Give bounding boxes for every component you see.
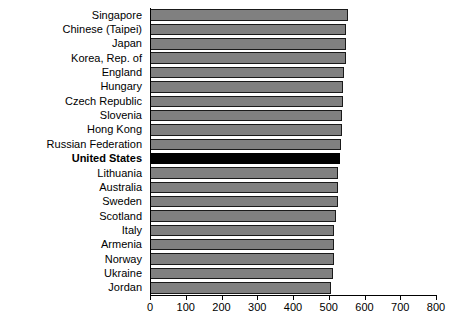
bar-armenia — [150, 239, 334, 250]
bar-japan — [150, 38, 346, 49]
bar-united-states — [150, 153, 340, 164]
x-tick-0 — [150, 295, 151, 300]
x-tick-label-300: 300 — [248, 301, 266, 313]
bar-chinese-taipei — [150, 24, 346, 35]
bar-italy — [150, 225, 334, 236]
category-label-czech-republic: Czech Republic — [0, 96, 142, 107]
x-tick-label-600: 600 — [355, 301, 373, 313]
bar-england — [150, 67, 344, 78]
bar-chart: SingaporeChinese (Taipei)JapanKorea, Rep… — [0, 0, 453, 329]
x-tick-300 — [257, 295, 258, 300]
x-tick-label-700: 700 — [391, 301, 409, 313]
x-tick-label-100: 100 — [177, 301, 195, 313]
bar-jordan — [150, 282, 331, 293]
category-label-hungary: Hungary — [0, 81, 142, 92]
x-tick-600 — [365, 295, 366, 300]
x-tick-label-500: 500 — [320, 301, 338, 313]
category-label-hong-kong: Hong Kong — [0, 124, 142, 135]
y-axis-line — [150, 8, 151, 295]
x-tick-700 — [400, 295, 401, 300]
x-tick-800 — [436, 295, 437, 300]
category-label-russian-federation: Russian Federation — [0, 139, 142, 150]
category-label-scotland: Scotland — [0, 211, 142, 222]
bar-hong-kong — [150, 124, 342, 135]
x-tick-label-400: 400 — [284, 301, 302, 313]
category-label-england: England — [0, 67, 142, 78]
x-tick-400 — [293, 295, 294, 300]
plot-area — [150, 8, 436, 295]
bar-lithuania — [150, 167, 338, 178]
bar-ukraine — [150, 268, 333, 279]
category-label-singapore: Singapore — [0, 10, 142, 21]
category-label-sweden: Sweden — [0, 196, 142, 207]
category-label-united-states: United States — [0, 153, 142, 164]
x-tick-label-800: 800 — [427, 301, 445, 313]
bar-russian-federation — [150, 139, 341, 150]
category-label-lithuania: Lithuania — [0, 168, 142, 179]
bar-czech-republic — [150, 96, 343, 107]
category-label-italy: Italy — [0, 225, 142, 236]
x-tick-label-200: 200 — [212, 301, 230, 313]
x-tick-label-0: 0 — [147, 301, 153, 313]
x-tick-500 — [329, 295, 330, 300]
category-axis-labels: SingaporeChinese (Taipei)JapanKorea, Rep… — [0, 8, 146, 295]
x-tick-100 — [186, 295, 187, 300]
bar-sweden — [150, 196, 338, 207]
category-label-japan: Japan — [0, 38, 142, 49]
bar-korea-rep-of — [150, 52, 346, 63]
category-label-jordan: Jordan — [0, 282, 142, 293]
category-label-chinese-taipei: Chinese (Taipei) — [0, 24, 142, 35]
bar-scotland — [150, 210, 336, 221]
category-label-australia: Australia — [0, 182, 142, 193]
category-label-slovenia: Slovenia — [0, 110, 142, 121]
bar-slovenia — [150, 110, 342, 121]
category-label-ukraine: Ukraine — [0, 268, 142, 279]
bar-norway — [150, 253, 334, 264]
bar-australia — [150, 182, 338, 193]
category-label-norway: Norway — [0, 254, 142, 265]
category-label-armenia: Armenia — [0, 239, 142, 250]
bar-singapore — [150, 9, 348, 20]
bar-hungary — [150, 81, 343, 92]
x-tick-200 — [222, 295, 223, 300]
category-label-korea-rep-of: Korea, Rep. of — [0, 53, 142, 64]
